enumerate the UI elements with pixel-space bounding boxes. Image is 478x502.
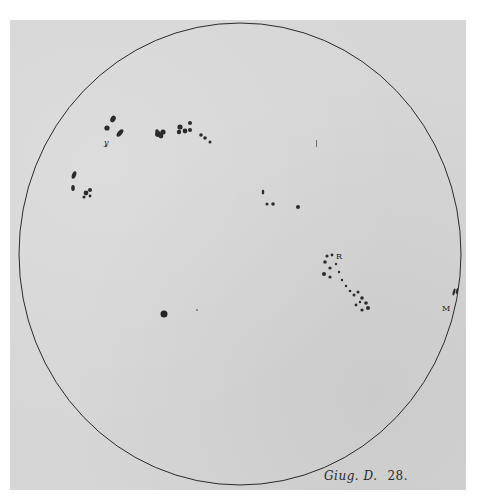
sunspot-group-left [71, 171, 92, 199]
sunspot-group-center-right [262, 140, 317, 209]
sunspot-tiny [196, 309, 198, 311]
limb-label-m: M [442, 304, 450, 313]
plate-caption: Giug. D.28. [324, 469, 408, 483]
group-label-y: y [104, 138, 109, 147]
caption-date: Giug. D. [324, 469, 377, 483]
group-label-r: R [336, 252, 342, 261]
solar-disk-outline [19, 23, 461, 485]
sunspot-drawing [0, 0, 478, 502]
sunspot-isolated [161, 311, 168, 318]
caption-number: 28. [387, 469, 408, 483]
sunspot-group-upper-middle [155, 121, 212, 144]
sunspot-group-r [322, 254, 370, 312]
